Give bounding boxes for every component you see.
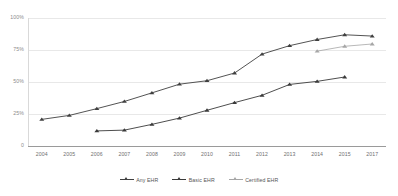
legend-label: Basic EHR (189, 177, 215, 183)
series-line (97, 77, 345, 131)
legend-item-any-ehr[interactable]: Any EHR (120, 176, 159, 183)
legend-marker-icon (120, 176, 134, 183)
data-point-marker (370, 42, 375, 45)
series-any-ehr (39, 33, 374, 121)
legend-item-certified-ehr[interactable]: Certified EHR (229, 176, 279, 183)
ehr-adoption-line-chart: 100% 75% 50% 25% 0 200420052006200720082… (0, 0, 398, 196)
legend-marker-icon (229, 176, 243, 183)
legend-label: Certified EHR (245, 177, 278, 183)
series-basic-ehr (94, 75, 347, 132)
series-canvas (0, 0, 398, 196)
series-certified-ehr (315, 42, 375, 52)
data-point-marker (342, 75, 347, 78)
series-line (42, 35, 372, 120)
legend-item-basic-ehr[interactable]: Basic EHR (172, 176, 214, 183)
legend-label: Any EHR (136, 177, 158, 183)
legend-marker-icon (172, 176, 186, 183)
legend: Any EHRBasic EHRCertified EHR (0, 176, 398, 183)
